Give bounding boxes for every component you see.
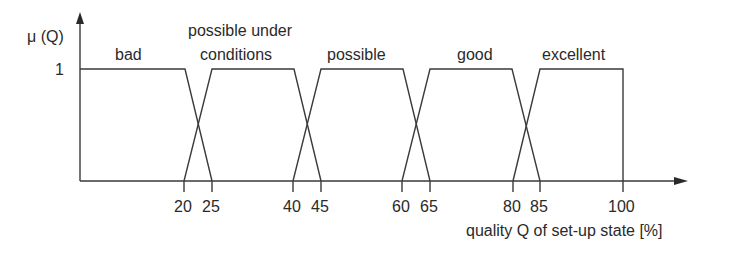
x-tick-label-60: 60 — [392, 198, 410, 215]
y-axis-label: μ (Q) — [27, 28, 64, 45]
y-tick-label-1: 1 — [55, 61, 64, 78]
x-tick-label-20: 20 — [174, 198, 192, 215]
membership-function-chart: μ (Q) 1 bad possible under conditions po… — [0, 0, 741, 255]
x-ticks — [184, 181, 623, 192]
series-excellent-curve — [513, 69, 623, 181]
x-tick-label-25: 25 — [202, 198, 220, 215]
x-tick-label-65: 65 — [420, 198, 438, 215]
series-possible-curve — [293, 69, 430, 181]
x-tick-label-40: 40 — [283, 198, 301, 215]
set-label-good: good — [457, 46, 493, 63]
series-good-curve — [402, 69, 540, 181]
x-axis-label: quality Q of set-up state [%] — [466, 222, 663, 239]
x-axis-arrow-icon — [674, 177, 688, 185]
series-bad-curve — [80, 69, 212, 181]
x-tick-label-85: 85 — [530, 198, 548, 215]
x-tick-label-80: 80 — [503, 198, 521, 215]
set-label-excellent: excellent — [542, 46, 606, 63]
set-label-puc-line1: possible under — [188, 22, 293, 39]
y-axis-arrow-icon — [76, 12, 84, 24]
set-label-possible: possible — [327, 46, 386, 63]
set-label-puc-line2: conditions — [200, 46, 272, 63]
set-label-bad: bad — [115, 46, 142, 63]
x-tick-label-45: 45 — [311, 198, 329, 215]
series-possible-under-conditions-curve — [184, 69, 321, 181]
x-tick-label-100: 100 — [608, 198, 635, 215]
